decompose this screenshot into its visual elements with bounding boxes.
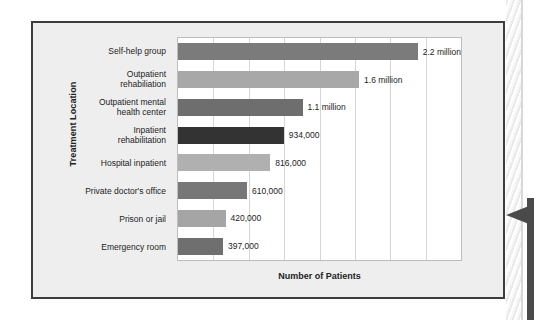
category-label: Emergency room [53, 233, 171, 261]
bar-row: 816,000 [178, 149, 461, 177]
bar-value-label: 397,000 [228, 241, 259, 251]
bar-value-label: 1.6 million [364, 75, 402, 85]
bar-row: 934,000 [178, 121, 461, 149]
bar [178, 127, 284, 144]
bar-value-label: 816,000 [275, 158, 306, 168]
bar [178, 210, 226, 227]
page-edge-hatching-decoration [506, 0, 522, 320]
page-background: Treatment Location Self-help groupOutpat… [0, 0, 534, 320]
bar-value-label: 934,000 [289, 130, 320, 140]
category-label: Outpatient mentalhealth center [53, 93, 171, 121]
bar [178, 99, 303, 116]
bar [178, 154, 270, 171]
bar-row: 420,000 [178, 205, 461, 233]
bar-value-label: 420,000 [231, 213, 262, 223]
bar [178, 43, 418, 60]
category-label: Private doctor's office [53, 177, 171, 205]
bar [178, 71, 359, 88]
bar-row: 1.1 million [178, 94, 461, 122]
category-label: Self-help group [53, 37, 171, 65]
category-label: Prison or jail [53, 205, 171, 233]
bar-row: 1.6 million [178, 66, 461, 94]
category-label: Inpatientrehabilitation [53, 121, 171, 149]
chart-figure: Treatment Location Self-help groupOutpat… [31, 21, 505, 299]
bar-value-label: 1.1 million [308, 102, 346, 112]
callout-bar-decoration [527, 198, 534, 320]
y-axis-category-labels: Self-help groupOutpatientrehabiliationOu… [53, 37, 171, 261]
plot-area: 2.2 million1.6 million1.1 million934,000… [177, 37, 462, 261]
bar-row: 610,000 [178, 177, 461, 205]
bar-row: 397,000 [178, 232, 461, 260]
bar-value-label: 2.2 million [423, 47, 461, 57]
category-label: Outpatientrehabiliation [53, 65, 171, 93]
bar-series: 2.2 million1.6 million1.1 million934,000… [178, 38, 461, 260]
bar [178, 238, 223, 255]
bar-row: 2.2 million [178, 38, 461, 66]
bar-value-label: 610,000 [252, 186, 283, 196]
x-axis-title: Number of Patients [177, 271, 462, 281]
category-label: Hospital inpatient [53, 149, 171, 177]
page-edge-rule [521, 0, 523, 320]
bar [178, 182, 247, 199]
